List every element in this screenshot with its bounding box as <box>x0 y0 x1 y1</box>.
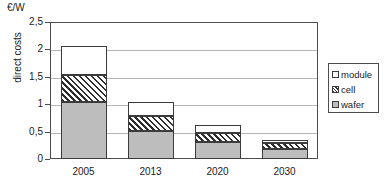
bar-stack <box>128 22 174 159</box>
bar-segment-wafer[interactable] <box>128 131 174 159</box>
legend: modulecellwafer <box>328 63 379 113</box>
bars-layer <box>50 22 318 159</box>
bar-group[interactable] <box>262 22 308 159</box>
hatched-square-swatch <box>332 86 339 93</box>
bar-stack <box>262 22 308 159</box>
y-tick-label: 1 <box>3 98 43 109</box>
bar-group[interactable] <box>128 22 174 159</box>
y-tick-label: 1,5 <box>3 71 43 82</box>
x-tick-label: 2005 <box>54 166 114 177</box>
legend-item-wafer[interactable]: wafer <box>332 97 378 112</box>
bar-group[interactable] <box>61 22 107 159</box>
bar-segment-wafer[interactable] <box>61 102 107 159</box>
y-tick-label: 2 <box>3 43 43 54</box>
x-tick-label: 2030 <box>255 166 315 177</box>
legend-item-label: wafer <box>341 99 364 110</box>
white-square-swatch <box>332 71 339 78</box>
bar-segment-cell[interactable] <box>195 133 241 142</box>
y-tick-label: 0,5 <box>3 126 43 137</box>
bar-segment-cell[interactable] <box>128 116 174 130</box>
bar-segment-wafer[interactable] <box>195 142 241 159</box>
legend-item-label: cell <box>341 84 355 95</box>
legend-item-module[interactable]: module <box>332 67 378 82</box>
x-tick-label: 2013 <box>121 166 181 177</box>
y-tick-mark <box>45 159 50 160</box>
bar-segment-cell[interactable] <box>61 75 107 102</box>
legend-item-label: module <box>341 69 372 80</box>
bar-segment-module[interactable] <box>195 125 241 133</box>
bar-segment-wafer[interactable] <box>262 149 308 159</box>
bar-segment-module[interactable] <box>128 102 174 116</box>
bar-stack <box>195 22 241 159</box>
bar-segment-cell[interactable] <box>262 143 308 149</box>
x-tick-label: 2020 <box>188 166 248 177</box>
gray-square-swatch <box>332 101 339 108</box>
bar-segment-module[interactable] <box>61 46 107 76</box>
y-tick-label: 2,5 <box>3 16 43 27</box>
legend-item-cell[interactable]: cell <box>332 82 378 97</box>
bar-segment-module[interactable] <box>262 140 308 143</box>
stacked-bar-chart: €/W direct costs 00,511,522,5 2005201320… <box>0 0 384 188</box>
bar-stack <box>61 22 107 159</box>
bar-group[interactable] <box>195 22 241 159</box>
y-tick-label: 0 <box>3 153 43 164</box>
